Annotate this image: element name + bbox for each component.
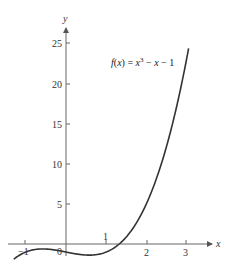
function-plot: x y −1 0 1 2 3 5 10 15 20 25 f(x) = x3 −… [0, 0, 237, 277]
x-axis-label: x [215, 238, 221, 249]
y-ticks [66, 43, 70, 204]
y-tick-label-5: 5 [57, 199, 62, 210]
y-tick-label-10: 10 [52, 159, 62, 170]
function-curve [14, 48, 189, 259]
y-tick-label-20: 20 [52, 79, 62, 90]
x-tick-label-1: 1 [103, 231, 108, 242]
x-tick-label-3: 3 [183, 247, 188, 258]
y-tick-label-25: 25 [52, 38, 62, 49]
function-label: f(x) = x3 − x − 1 [111, 56, 174, 69]
y-tick-label-15: 15 [52, 119, 62, 130]
x-tick-label-2: 2 [144, 247, 149, 258]
y-axis-label: y [62, 13, 68, 24]
